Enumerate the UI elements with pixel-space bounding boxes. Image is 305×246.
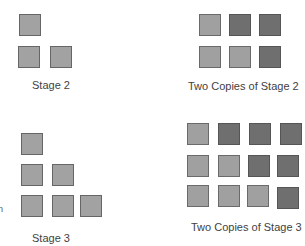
square-tile-light bbox=[229, 46, 251, 68]
square-tile-plain bbox=[52, 164, 74, 186]
label-stage-2: Stage 2 bbox=[32, 79, 70, 91]
square-tile-dark bbox=[248, 155, 270, 177]
square-tile-plain bbox=[21, 133, 43, 155]
square-tile-plain bbox=[52, 195, 74, 217]
label-two-copies-stage-2: Two Copies of Stage 2 bbox=[188, 80, 299, 92]
label-stage-3: Stage 3 bbox=[32, 232, 70, 244]
square-tile-light bbox=[199, 14, 221, 36]
label-two-copies-stage-3: Two Copies of Stage 3 bbox=[191, 221, 302, 233]
square-tile-dark bbox=[218, 123, 240, 145]
square-tile-plain bbox=[21, 195, 43, 217]
square-tile-light bbox=[199, 46, 221, 68]
square-tile-dark bbox=[229, 14, 251, 36]
square-tile-light bbox=[187, 185, 209, 207]
square-tile-dark bbox=[259, 46, 281, 68]
square-tile-plain bbox=[18, 46, 40, 68]
cropped-text-fragment: n bbox=[0, 204, 3, 214]
square-tile-dark bbox=[259, 14, 281, 36]
square-tile-light bbox=[247, 185, 269, 207]
square-tile-light bbox=[218, 185, 240, 207]
square-tile-light bbox=[187, 123, 209, 145]
square-tile-dark bbox=[280, 123, 302, 145]
square-tile-plain bbox=[21, 164, 43, 186]
square-tile-light bbox=[218, 155, 240, 177]
square-tile-plain bbox=[80, 195, 102, 217]
square-tile-plain bbox=[50, 46, 72, 68]
square-tile-dark bbox=[277, 187, 299, 209]
square-tile-plain bbox=[19, 14, 41, 36]
square-tile-light bbox=[187, 155, 209, 177]
square-tile-dark bbox=[249, 123, 271, 145]
square-tile-dark bbox=[277, 155, 299, 177]
